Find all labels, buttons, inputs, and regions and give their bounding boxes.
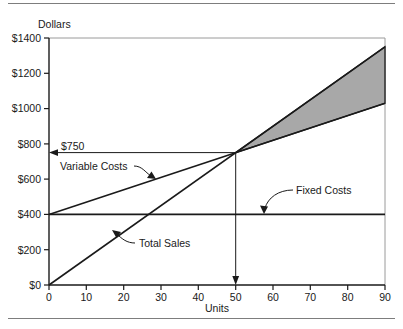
break-even-chart: Dollars Units $0 $200 $400 $600 $800 $1: [0, 0, 403, 329]
breakeven-dropline: [232, 153, 239, 285]
total-sales-label: Total Sales: [139, 237, 190, 249]
y-tick-label-200: $200: [18, 244, 42, 256]
y-axis-tick-labels: $0 $200 $400 $600 $800 $1000 $1200 $1400: [12, 32, 41, 291]
top-divider-rule: [8, 3, 395, 4]
fixed-costs-label: Fixed Costs: [296, 184, 351, 196]
y-tick-label-1200: $1200: [12, 67, 41, 79]
y-tick-label-1000: $1000: [12, 102, 41, 114]
y-tick-label-0: $0: [29, 279, 41, 291]
y-axis-title: Dollars: [38, 18, 71, 30]
y-tick-label-1400: $1400: [12, 32, 41, 44]
variable-costs-leader: [134, 166, 156, 179]
chart-figure: Dollars Units $0 $200 $400 $600 $800 $1: [0, 0, 403, 329]
x-tick-label-0: 0: [46, 291, 52, 303]
fixed-costs-leader: [260, 190, 293, 214]
x-tick-label-50: 50: [230, 291, 242, 303]
y-axis-ticks: [44, 38, 49, 285]
x-tick-label-90: 90: [379, 291, 391, 303]
y-tick-label-800: $800: [18, 138, 42, 150]
x-tick-label-80: 80: [342, 291, 354, 303]
x-tick-label-60: 60: [267, 291, 279, 303]
x-tick-label-10: 10: [80, 291, 92, 303]
y-tick-label-600: $600: [18, 173, 42, 185]
variable-costs-label: Variable Costs: [60, 160, 128, 172]
x-axis-ticks: [49, 285, 385, 290]
x-tick-label-30: 30: [155, 291, 167, 303]
x-tick-label-20: 20: [118, 291, 130, 303]
x-axis-title: Units: [205, 302, 229, 314]
bottom-divider-rule: [8, 318, 395, 319]
y-tick-label-400: $400: [18, 208, 42, 220]
x-tick-label-40: 40: [192, 291, 204, 303]
breakeven-value-label: $750: [61, 140, 85, 152]
x-tick-label-70: 70: [304, 291, 316, 303]
series-variable-costs-line: [49, 103, 385, 214]
